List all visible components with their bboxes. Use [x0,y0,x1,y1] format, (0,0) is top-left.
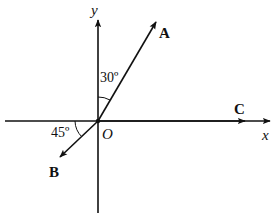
y-axis-label: y [89,2,98,18]
angle-label-30: 30º [100,70,119,85]
x-axis-label: x [261,127,269,143]
angle-arc-30 [98,97,110,100]
vector-c-label: C [234,101,245,117]
vector-a-label: A [159,25,170,41]
origin-point [96,119,100,123]
vector-diagram: y x O A B C 30º 45º [0,0,274,219]
vector-b-label: B [49,164,59,180]
angle-arc-45 [75,121,82,137]
angle-label-45: 45º [51,125,70,140]
origin-label: O [102,126,113,142]
